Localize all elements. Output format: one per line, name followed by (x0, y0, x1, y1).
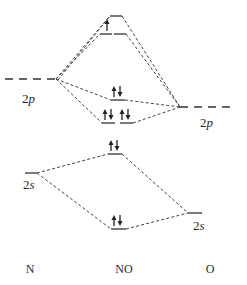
corr-n2p-pi (56, 79, 102, 123)
corr-o2p-sigmastar (122, 16, 180, 107)
electron-pair-arrows (109, 140, 120, 151)
corr-o2p-pistar (126, 34, 180, 107)
corr-n2p-pistar (56, 34, 100, 79)
o-2p-label: 2p (200, 115, 214, 130)
corr-o2s-sigma (126, 213, 188, 229)
electron-pair-arrows (112, 215, 123, 226)
electron-pair-arrows (112, 86, 123, 97)
n-2s-label: 2s (23, 177, 35, 192)
column-label-o: O (206, 262, 215, 276)
mo-diagram: 2p 2p 2s 2s N NO O (0, 0, 247, 285)
electron-pair-arrows (120, 109, 131, 120)
n-2p-label: 2p (22, 91, 36, 106)
electron-pair-arrows (103, 109, 114, 120)
corr-o2p-sigma (125, 100, 180, 107)
corr-n2s-sigmastar (37, 154, 108, 173)
column-label-n: N (26, 262, 35, 276)
corr-n2p-sigmastar-2 (58, 16, 110, 80)
electron-up-arrow (105, 19, 110, 31)
column-label-no: NO (115, 262, 133, 276)
corr-n2p-sigma (56, 79, 111, 100)
o-2s-label: 2s (193, 218, 205, 233)
corr-o2p-pi (133, 107, 180, 123)
corr-o2s-sigmastar (122, 154, 188, 213)
corr-n2s-sigma (37, 173, 111, 229)
